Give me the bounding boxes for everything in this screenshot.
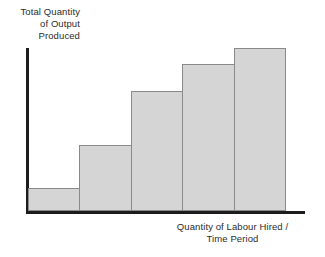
bar xyxy=(234,48,286,211)
total-product-bar-chart: Total Quantity of Output Produced Quanti… xyxy=(0,0,325,257)
bar xyxy=(79,145,131,211)
bar xyxy=(182,64,234,211)
bar xyxy=(131,91,183,211)
x-axis-line xyxy=(26,211,305,214)
x-axis-label: Quantity of Labour Hired / Time Period xyxy=(160,221,305,246)
plot-area xyxy=(28,45,285,211)
bar xyxy=(28,188,80,211)
y-axis-label: Total Quantity of Output Produced xyxy=(0,6,80,43)
